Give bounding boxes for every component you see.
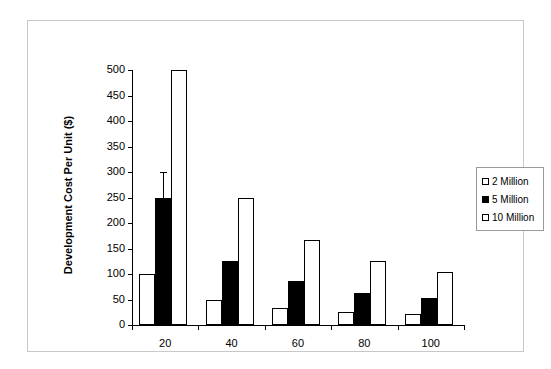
y-axis-title: Development Cost Per Unit ($) — [61, 65, 75, 325]
y-axis-tick-mark — [128, 249, 133, 250]
x-axis-line — [132, 325, 464, 326]
legend-item-label: 2 Million — [492, 176, 529, 187]
legend-swatch-icon — [482, 196, 489, 203]
y-axis-tick-label: 0 — [119, 318, 125, 331]
bar — [222, 261, 238, 325]
error-bar-cap — [160, 172, 167, 173]
chart-outer-frame: Development Cost Per Unit ($) 0501001502… — [27, 20, 524, 352]
y-axis-tick-mark — [128, 274, 133, 275]
legend-item-label: 10 Million — [492, 212, 534, 223]
x-axis-tick-label: 100 — [398, 337, 464, 349]
bar — [304, 240, 320, 325]
legend-swatch-icon — [482, 214, 489, 221]
x-axis-tick-mark — [132, 325, 133, 330]
y-axis-tick-label: 100 — [107, 267, 125, 280]
y-axis-tick-mark — [128, 121, 133, 122]
y-axis-tick-label: 250 — [107, 191, 125, 204]
y-axis-tick-label: 500 — [107, 63, 125, 76]
y-axis-tick-mark — [128, 198, 133, 199]
x-axis-tick-label: 20 — [132, 337, 198, 349]
bar — [370, 261, 386, 325]
y-axis-tick-label: 400 — [107, 114, 125, 127]
x-axis-tick-label: 80 — [331, 337, 397, 349]
error-bar-line — [163, 172, 164, 198]
chart-figure: Development Cost Per Unit ($) 0501001502… — [0, 0, 551, 369]
bar — [206, 300, 222, 326]
bar — [421, 298, 437, 325]
legend-swatch-icon — [482, 178, 489, 185]
y-axis-tick-label: 150 — [107, 242, 125, 255]
y-axis-tick-label: 350 — [107, 140, 125, 153]
y-axis-tick-label: 50 — [113, 293, 125, 306]
legend-item[interactable]: 5 Million — [482, 190, 539, 208]
x-axis-tick-mark — [265, 325, 266, 330]
legend-item-label: 5 Million — [492, 194, 529, 205]
bar — [338, 312, 354, 325]
bar — [155, 198, 171, 326]
bar — [405, 314, 421, 325]
x-axis-tick-mark — [198, 325, 199, 330]
x-axis-tick-mark — [331, 325, 332, 330]
plot-area: 050100150200250300350400450500 204060801… — [132, 65, 464, 325]
y-axis-tick-label: 450 — [107, 89, 125, 102]
bar — [272, 308, 288, 325]
x-axis-tick-mark — [398, 325, 399, 330]
chart-legend: 2 Million5 Million10 Million — [476, 167, 544, 231]
y-axis-tick-mark — [128, 96, 133, 97]
x-axis-tick-mark — [464, 325, 465, 330]
bar — [288, 281, 304, 325]
y-axis-tick-mark — [128, 300, 133, 301]
bar — [238, 198, 254, 326]
y-axis-tick-mark — [128, 223, 133, 224]
y-axis-tick-mark — [128, 172, 133, 173]
bar — [171, 70, 187, 325]
bar — [437, 272, 453, 325]
x-axis-tick-label: 60 — [265, 337, 331, 349]
legend-item[interactable]: 10 Million — [482, 208, 539, 226]
bar — [139, 274, 155, 325]
x-axis-tick-label: 40 — [198, 337, 264, 349]
y-axis-tick-label: 200 — [107, 216, 125, 229]
legend-item[interactable]: 2 Million — [482, 172, 539, 190]
y-axis-tick-label: 300 — [107, 165, 125, 178]
y-axis-tick-mark — [128, 70, 133, 71]
y-axis-tick-mark — [128, 147, 133, 148]
bar — [354, 293, 370, 325]
